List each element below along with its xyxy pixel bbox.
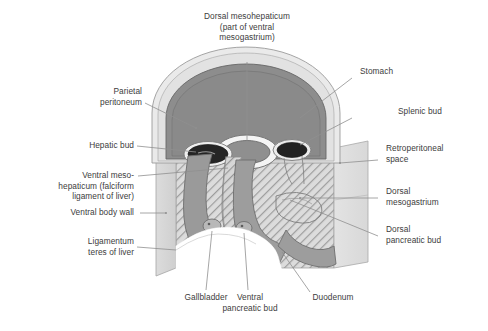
label-dorsal-mesohepaticum: Dorsal mesohepaticum (part of ventral me… — [170, 11, 324, 43]
label-stomach: Stomach — [360, 66, 480, 77]
label-ventral-pancreatic-bud: Ventral pancreatic bud — [212, 292, 288, 313]
label-retroperitoneal-space: Retroperitoneal space — [386, 143, 486, 164]
anatomical-figure: Dorsal mesohepaticum (part of ventral me… — [0, 0, 488, 331]
label-ventral-mesohepaticum: Ventral meso- hepaticum (falciform ligam… — [6, 170, 134, 202]
label-ventral-body-wall: Ventral body wall — [16, 207, 134, 218]
label-parietal-peritoneum: Parietal peritoneum — [36, 86, 142, 107]
label-dorsal-mesogastrium: Dorsal mesogastrium — [386, 186, 486, 207]
illustration — [0, 0, 488, 331]
label-splenic-bud: Splenic bud — [398, 106, 484, 117]
label-hepatic-bud: Hepatic bud — [36, 140, 134, 151]
label-duodenum: Duodenum — [288, 292, 378, 303]
label-dorsal-pancreatic-bud: Dorsal pancreatic bud — [386, 224, 486, 245]
label-ligamentum-teres: Ligamentum teres of liver — [36, 236, 134, 257]
